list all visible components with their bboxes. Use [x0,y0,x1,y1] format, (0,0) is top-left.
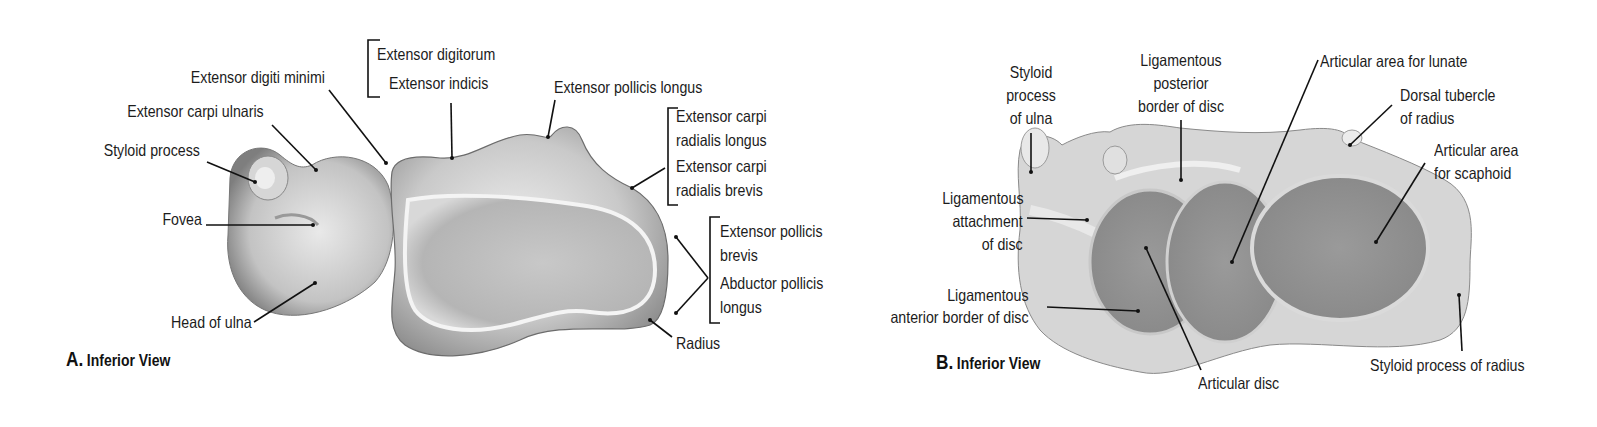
label-lig-post-line3: border of disc [1129,95,1232,118]
label-lig-attach-line1: Ligamentous [942,187,1023,210]
label-styloid-ulna-line2: process [997,84,1066,107]
label-articular-disc: Articular disc [1198,372,1279,395]
label-extensor-indicis: Extensor indicis [389,72,488,95]
label-extensor-carpi-ulnaris: Extensor carpi ulnaris [128,100,264,123]
ulna-head-drawing [228,148,394,315]
label-styloid-process: Styloid process [104,139,200,162]
label-lig-post-line2: posterior [1129,72,1232,95]
caption-view-a: Inferior View [87,351,170,370]
label-articular-scaphoid-line1: Articular area [1434,139,1518,162]
caption-letter-a: A. [66,347,83,370]
label-dorsal-tubercle-line2: of radius [1400,107,1454,130]
label-styloid-ulna-line3: of ulna [997,107,1066,130]
label-lig-post-line1: Ligamentous [1129,49,1232,72]
label-ecrl-line2: radialis longus [676,129,767,152]
label-extensor-digiti-minimi: Extensor digiti minimi [191,66,325,89]
label-ecrb-line2: radialis brevis [676,179,763,202]
label-epb-line2: brevis [720,244,758,267]
label-dorsal-tubercle-line1: Dorsal tubercle [1400,84,1495,107]
label-styloid-ulna-line1: Styloid [997,61,1066,84]
label-lig-ant-line2: anterior border of disc [890,306,1028,329]
label-radius: Radius [676,332,720,355]
caption-panel-a: A. Inferior View [66,347,170,371]
label-articular-lunate: Articular area for lunate [1320,50,1468,73]
label-fovea: Fovea [163,208,202,231]
radius-drawing [391,127,668,356]
label-extensor-pollicis-longus: Extensor pollicis longus [554,76,702,99]
caption-view-b: Inferior View [957,354,1040,373]
caption-letter-b: B. [936,350,953,373]
label-extensor-digitorum: Extensor digitorum [377,43,495,66]
label-lig-attach-line2: attachment [953,210,1023,233]
label-head-of-ulna: Head of ulna [172,311,252,334]
label-articular-scaphoid-line2: for scaphoid [1434,162,1511,185]
label-lig-ant-line1: Ligamentous [947,284,1028,307]
label-apl-line2: longus [720,296,762,319]
label-apl-line1: Abductor pollicis [720,272,823,295]
caption-panel-b: B. Inferior View [936,350,1040,374]
label-epb-line1: Extensor pollicis [720,220,823,243]
label-ecrb-line1: Extensor carpi [676,155,767,178]
label-lig-attach-line3: of disc [982,233,1023,256]
wrist-disc-drawing [1018,124,1471,373]
label-styloid-radius: Styloid process of radius [1370,354,1525,377]
label-ecrl-line1: Extensor carpi [676,105,767,128]
